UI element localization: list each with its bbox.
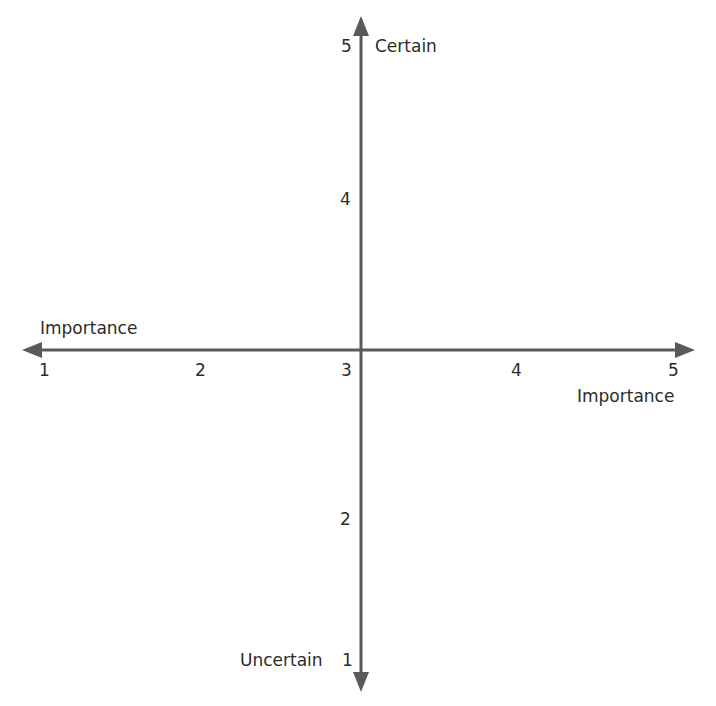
x-tick-3: 3	[341, 360, 352, 380]
quadrant-axes	[0, 0, 716, 706]
y-axis-top-label: Certain	[375, 36, 437, 56]
y-axis-bottom-label: Uncertain	[240, 650, 323, 670]
arrow-left-icon	[22, 342, 42, 358]
y-tick-1: 1	[342, 650, 353, 670]
y-tick-4: 4	[340, 189, 351, 209]
x-axis-right-label: Importance	[577, 386, 674, 406]
vertical-axis	[353, 16, 369, 692]
x-tick-2: 2	[195, 360, 206, 380]
x-tick-1: 1	[39, 360, 50, 380]
y-tick-5: 5	[341, 36, 352, 56]
x-tick-5: 5	[668, 360, 679, 380]
arrow-up-icon	[353, 16, 369, 36]
y-tick-2: 2	[340, 509, 351, 529]
arrow-down-icon	[353, 672, 369, 692]
x-axis-left-label: Importance	[40, 318, 137, 338]
arrow-right-icon	[675, 342, 695, 358]
horizontal-axis	[22, 342, 695, 358]
x-tick-4: 4	[511, 360, 522, 380]
